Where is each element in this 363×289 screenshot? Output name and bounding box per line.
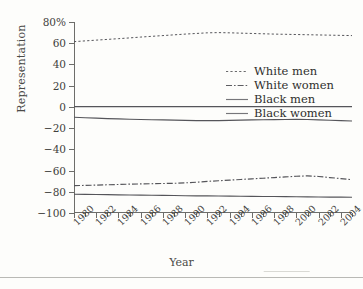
legend-item-label: Black women — [254, 108, 332, 120]
y-tick-label: −40 — [44, 143, 66, 155]
y-tick-label: 0 — [59, 101, 66, 113]
series-line-white-women — [74, 176, 352, 186]
page-corner-artifact — [254, 271, 310, 284]
chart-figure: Representation Year 80%6040200−20−40−60−… — [0, 0, 363, 289]
series-line-white-men — [74, 33, 352, 42]
legend-item-white-women[interactable]: White women — [226, 79, 334, 92]
legend-line-swatch — [226, 81, 248, 90]
legend-item-black-men[interactable]: Black men — [226, 93, 334, 106]
y-tick-label: 40 — [53, 58, 66, 70]
legend-item-black-women[interactable]: Black women — [226, 107, 334, 120]
x-axis-title: Year — [0, 256, 363, 269]
y-tick-label: −60 — [44, 165, 66, 177]
legend-item-white-men[interactable]: White men — [226, 65, 334, 78]
y-tick-label: −80 — [44, 186, 66, 198]
legend-item-label: White women — [254, 80, 334, 92]
y-tick-label: 20 — [53, 80, 66, 92]
y-tick-label: −100 — [37, 207, 66, 219]
y-tick-label: 60 — [53, 37, 66, 49]
page-divider-rule — [0, 277, 363, 278]
legend-line-swatch — [226, 109, 248, 118]
y-tick-label: 80% — [43, 16, 66, 28]
y-axis-title: Representation — [15, 4, 28, 134]
legend-item-label: Black men — [254, 94, 315, 106]
y-tick-label: −20 — [44, 122, 66, 134]
legend-line-swatch — [226, 95, 248, 104]
series-line-black-women-lower — [74, 194, 352, 197]
plot-area: 80%6040200−20−40−60−80−100 1980198219841… — [74, 22, 352, 213]
legend-line-swatch — [226, 67, 248, 76]
chart-legend: White menWhite womenBlack menBlack women — [226, 65, 334, 120]
legend-item-label: White men — [254, 66, 317, 78]
